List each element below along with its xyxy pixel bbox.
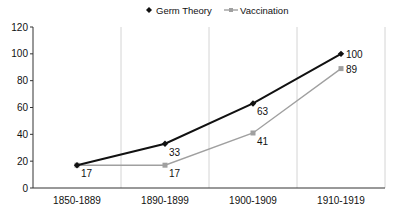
x-tick-label: 1900-1909 — [229, 195, 277, 206]
germ-theory-data-label: 100 — [346, 49, 363, 60]
diamond-marker-icon — [162, 141, 168, 147]
y-tick-label: 0 — [22, 183, 28, 194]
vaccination-data-label: 17 — [81, 168, 93, 179]
diamond-marker-icon — [146, 7, 152, 13]
y-tick-label: 40 — [17, 129, 29, 140]
legend: Germ TheoryVaccination — [146, 5, 288, 16]
x-tick-label: 1910-1919 — [317, 195, 365, 206]
y-tick-label: 60 — [17, 102, 29, 113]
y-tick-label: 20 — [17, 156, 29, 167]
legend-label: Germ Theory — [156, 5, 212, 16]
y-tick-label: 100 — [11, 48, 28, 59]
data-labels: 171741893363100 — [81, 49, 363, 179]
y-tick-label: 80 — [17, 75, 29, 86]
x-tick-label: 1850-1889 — [53, 195, 101, 206]
x-tick-label: 1890-1899 — [141, 195, 189, 206]
y-tick-label: 120 — [11, 22, 28, 33]
line-chart: Germ TheoryVaccination 020406080100120 1… — [0, 0, 403, 217]
square-marker-icon — [339, 66, 344, 71]
legend-label: Vaccination — [240, 5, 288, 16]
germ-theory-data-label: 63 — [257, 106, 269, 117]
x-axis-ticks: 1850-18891890-18991900-19091910-1919 — [53, 195, 365, 206]
vaccination-data-label: 89 — [346, 64, 358, 75]
germ-theory-data-label: 33 — [169, 147, 181, 158]
square-marker-icon — [251, 130, 256, 135]
vaccination-data-label: 17 — [169, 168, 181, 179]
legend-item-vaccination: Vaccination — [224, 5, 288, 16]
legend-item-germ-theory: Germ Theory — [146, 5, 212, 16]
square-marker-icon — [163, 163, 168, 168]
vaccination-data-label: 41 — [257, 136, 269, 147]
y-axis-ticks: 020406080100120 — [11, 22, 33, 194]
square-marker-icon — [229, 8, 233, 12]
